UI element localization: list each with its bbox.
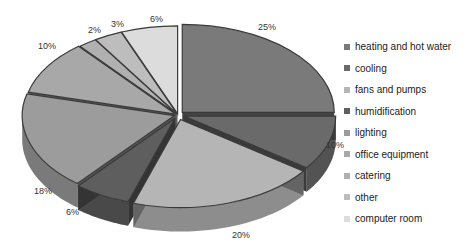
pct-label: 25% <box>258 22 276 32</box>
legend-item-computer-room: computer room <box>344 208 451 230</box>
legend-label: humidification <box>355 106 416 117</box>
pct-label: 18% <box>34 186 52 196</box>
legend-label: catering <box>355 170 391 181</box>
pct-label: 6% <box>150 14 163 24</box>
legend-item-lighting: lighting <box>344 122 451 144</box>
legend-label: fans and pumps <box>355 84 426 95</box>
legend-item-other: other <box>344 187 451 209</box>
pct-label: 6% <box>66 207 79 217</box>
pct-label: 2% <box>88 25 101 35</box>
pct-label: 20% <box>232 230 250 240</box>
legend-swatch <box>344 194 350 200</box>
legend-swatch <box>344 173 350 179</box>
legend-swatch <box>344 216 350 222</box>
legend-swatch <box>344 151 350 157</box>
legend-item-office: office equipment <box>344 144 451 166</box>
legend-label: lighting <box>355 127 387 138</box>
legend-label: computer room <box>355 213 422 224</box>
legend-item-humidification: humidification <box>344 101 451 123</box>
legend-item-catering: catering <box>344 165 451 187</box>
legend-label: cooling <box>355 63 387 74</box>
legend-label: other <box>355 192 378 203</box>
legend-item-heating: heating and hot water <box>344 36 451 58</box>
legend-swatch <box>344 108 350 114</box>
pct-label: 3% <box>111 19 124 29</box>
legend: heating and hot water cooling fans and p… <box>344 36 451 230</box>
legend-item-cooling: cooling <box>344 58 451 80</box>
legend-swatch <box>344 130 350 136</box>
legend-swatch <box>344 65 350 71</box>
pct-label: 10% <box>38 41 56 51</box>
legend-item-fans: fans and pumps <box>344 79 451 101</box>
legend-swatch <box>344 44 350 50</box>
legend-label: office equipment <box>355 149 428 160</box>
pct-label: 10% <box>326 140 344 150</box>
legend-swatch <box>344 87 350 93</box>
legend-label: heating and hot water <box>355 41 451 52</box>
pie-slices <box>22 24 336 231</box>
slice-heating-and-hot-water <box>182 24 334 112</box>
